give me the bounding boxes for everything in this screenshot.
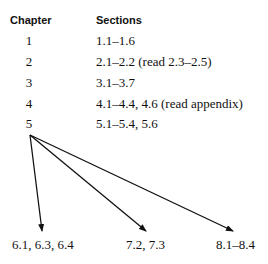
arrow-to-ch8 [30,135,233,231]
arrow-to-ch7 [30,135,146,231]
target-label-ch6: 6.1, 6.3, 6.4 [12,237,74,253]
target-label-ch7: 7.2, 7.3 [126,237,165,253]
dependency-arrows [0,0,268,264]
target-label-ch8: 8.1–8.4 [216,237,255,253]
arrow-to-ch6 [30,135,42,231]
